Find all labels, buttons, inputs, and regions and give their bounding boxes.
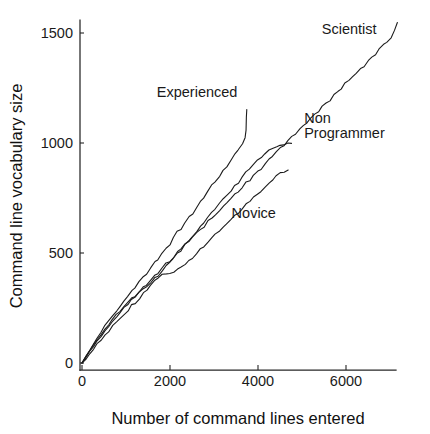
x-tick-label-4000: 4000 xyxy=(242,373,274,389)
y-axis-title: Command line vocabulary size xyxy=(7,84,25,309)
y-tick-label-0: 0 xyxy=(65,355,73,371)
y-tick-label-1500: 1500 xyxy=(41,25,73,41)
axes-group xyxy=(80,20,396,370)
y-tick-label-500: 500 xyxy=(49,245,73,261)
x-tick-label-0: 0 xyxy=(78,373,86,389)
series-lines xyxy=(82,23,397,363)
x-tick-label-2000: 2000 xyxy=(154,373,186,389)
series-label-scientist: Scientist xyxy=(322,21,377,37)
series-label-line: Programmer xyxy=(304,125,385,141)
chart-canvas: 050010001500 0200040006000 ScientistExpe… xyxy=(0,0,430,434)
series-label-novice: Novice xyxy=(232,205,276,221)
x-tick-label-6000: 6000 xyxy=(330,373,362,389)
series-line-novice xyxy=(82,170,288,363)
series-label-line: Novice xyxy=(232,205,276,221)
x-axis-ticks xyxy=(82,365,346,370)
chart-figure: 050010001500 0200040006000 ScientistExpe… xyxy=(0,0,430,434)
series-label-line: Scientist xyxy=(322,21,377,37)
series-label-line: Non xyxy=(304,110,331,126)
series-line-non-programmer xyxy=(82,143,292,363)
series-line-experienced xyxy=(82,110,247,363)
y-axis-tick-labels: 050010001500 xyxy=(41,25,73,371)
y-tick-label-1000: 1000 xyxy=(41,135,73,151)
series-label-line: Experienced xyxy=(157,84,238,100)
series-annotations: ScientistExperiencedNonProgrammerNovice xyxy=(157,21,385,221)
series-line-scientist xyxy=(82,23,397,363)
x-axis-title: Number of command lines entered xyxy=(111,409,364,427)
series-label-experienced: Experienced xyxy=(157,84,238,100)
series-label-non-programmer: NonProgrammer xyxy=(304,110,385,141)
x-axis-tick-labels: 0200040006000 xyxy=(78,373,362,389)
